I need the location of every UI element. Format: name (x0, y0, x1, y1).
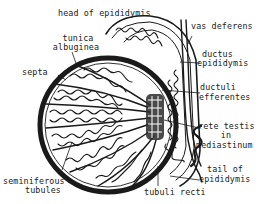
label-ductuli-efferentes-line2: efferentes (199, 93, 250, 102)
label-tunica-albuginea-line2: albuginea (48, 43, 104, 52)
label-ductus-epididymis-line2: epididymis (197, 59, 248, 68)
rete-testis-network (146, 94, 164, 140)
label-rete-testis-line3: mediastinum (196, 141, 253, 150)
label-seminiferous-tubules-line2: tubules (25, 186, 61, 195)
label-ductuli-efferentes-line1: ductuli (200, 83, 236, 92)
label-tail-of-epididymis-line2: epididymis (199, 175, 250, 184)
label-rete-testis-line2: in (198, 131, 254, 140)
label-head-of-epididymis: head of epididymis (58, 9, 151, 18)
label-septa: septa (22, 68, 48, 77)
label-tail-of-epididymis-line1: tail of (207, 165, 243, 174)
label-vas-deferens: vas deferens (191, 22, 253, 31)
label-tubuli-recti: tubuli recti (144, 188, 206, 197)
